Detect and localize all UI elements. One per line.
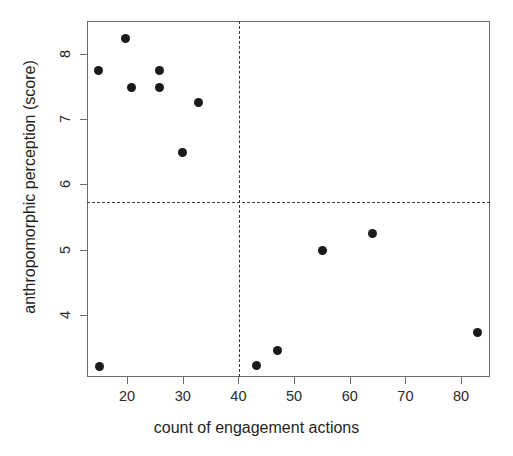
data-point — [121, 34, 130, 43]
y-axis-tick-label: 6 — [56, 175, 74, 193]
data-layer — [88, 22, 489, 376]
data-point — [368, 229, 377, 238]
y-axis-tick-label: 7 — [56, 110, 74, 128]
plot-panel — [87, 21, 490, 377]
data-point — [178, 148, 187, 157]
x-axis-label: count of engagement actions — [0, 419, 513, 437]
x-axis-tick — [183, 377, 184, 384]
data-point — [318, 246, 327, 255]
y-axis-tick — [80, 250, 87, 251]
reference-line-vertical — [239, 21, 240, 377]
data-point — [252, 361, 261, 370]
data-point — [194, 98, 203, 107]
data-point — [155, 83, 164, 92]
data-point — [95, 362, 104, 371]
data-point — [94, 66, 103, 75]
y-axis-tick — [80, 315, 87, 316]
data-point — [155, 66, 164, 75]
x-axis-tick — [294, 377, 295, 384]
y-axis-label: anthropomorphic perception (score) — [21, 37, 39, 337]
x-axis-tick — [127, 377, 128, 384]
x-axis-tick-label: 20 — [107, 388, 147, 404]
y-axis-tick — [80, 54, 87, 55]
x-axis-tick-label: 70 — [385, 388, 425, 404]
data-point — [473, 328, 482, 337]
x-axis-tick-label: 30 — [163, 388, 203, 404]
x-axis-tick-label: 60 — [330, 388, 370, 404]
y-axis-tick-label: 5 — [56, 241, 74, 259]
y-axis-tick — [80, 184, 87, 185]
x-axis-tick — [238, 377, 239, 384]
x-axis-tick — [405, 377, 406, 384]
reference-line-horizontal — [87, 202, 490, 203]
y-axis-tick — [80, 119, 87, 120]
scatter-plot-figure: anthropomorphic perception (score) 45678… — [0, 0, 513, 456]
x-axis-tick-label: 40 — [218, 388, 258, 404]
x-axis-tick — [461, 377, 462, 384]
x-axis-tick-label: 50 — [274, 388, 314, 404]
data-point — [273, 346, 282, 355]
y-axis-tick-label: 4 — [56, 306, 74, 324]
x-axis-tick-label: 80 — [441, 388, 481, 404]
y-axis-tick-label: 8 — [56, 45, 74, 63]
data-point — [127, 83, 136, 92]
x-axis-tick — [350, 377, 351, 384]
